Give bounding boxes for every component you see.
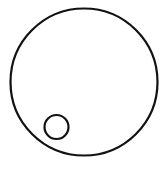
outer-circle (11, 9, 158, 156)
diagram-canvas (0, 0, 167, 169)
inner-circle (45, 115, 69, 139)
